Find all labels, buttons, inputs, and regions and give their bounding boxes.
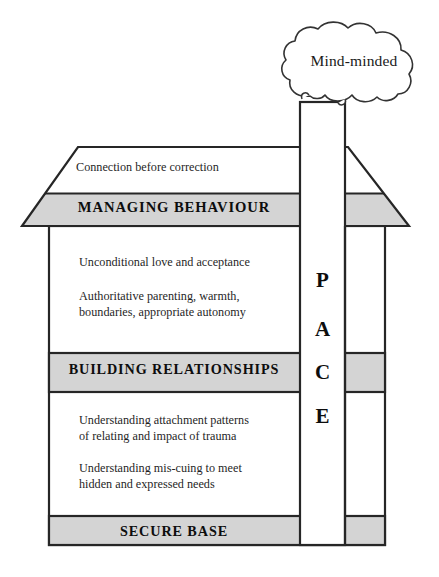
house-body-group <box>0 102 439 545</box>
thought-cloud-shape <box>282 22 413 102</box>
roof-band-clip-group <box>0 193 439 226</box>
attachment-house-diagram: Mind-minded Connection before correction… <box>0 0 439 577</box>
managing-behaviour-band-fill <box>0 193 439 226</box>
pace-chimney-column <box>300 102 345 545</box>
mind-minded-cloud-group <box>282 22 413 105</box>
house-diagram-svg <box>0 0 439 577</box>
